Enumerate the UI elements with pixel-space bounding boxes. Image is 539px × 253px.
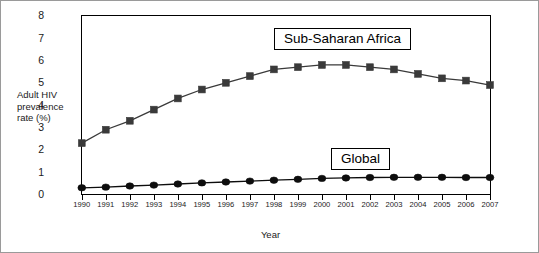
y-tick-label: 2 bbox=[22, 144, 44, 154]
y-tick-label: 1 bbox=[22, 167, 44, 177]
y-axis-title: Adult HIV prevalence rate (%) bbox=[17, 89, 79, 124]
annotation-label-sub-saharan-africa: Sub-Saharan Africa bbox=[274, 28, 411, 50]
y-axis-title-line-3: rate (%) bbox=[17, 112, 79, 124]
y-axis-title-line-1: Adult HIV bbox=[17, 89, 79, 101]
y-tick-label: 5 bbox=[22, 77, 44, 87]
y-tick-label: 0 bbox=[22, 189, 44, 199]
y-tick-label: 7 bbox=[22, 33, 44, 43]
x-axis-title: Year bbox=[1, 229, 539, 240]
y-axis-title-line-2: prevalence bbox=[17, 101, 79, 113]
y-tick-label: 6 bbox=[22, 55, 44, 65]
annotation-label-global: Global bbox=[331, 148, 390, 170]
y-tick-label: 8 bbox=[22, 10, 44, 20]
x-tick-label: 2007 bbox=[475, 200, 505, 209]
chart-figure: 012345678 Adult HIV prevalence rate (%) … bbox=[0, 0, 539, 253]
